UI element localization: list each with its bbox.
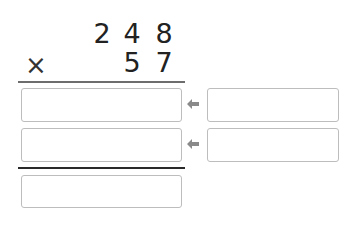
- arrow-left-icon: [187, 139, 199, 149]
- divider-line-bottom: [18, 167, 185, 169]
- partial-product-2-input[interactable]: [21, 128, 182, 162]
- multiply-sign: ×: [25, 52, 47, 78]
- arrow-left-icon: [187, 99, 199, 109]
- helper-2-input[interactable]: [207, 128, 339, 162]
- multiplicand-digit-ones: 8: [154, 20, 174, 47]
- multiplier-digit-tens: 5: [122, 49, 142, 76]
- multiplicand-digit-hundreds: 2: [92, 20, 112, 47]
- helper-1-input[interactable]: [207, 88, 339, 122]
- multiplicand-digit-tens: 4: [122, 20, 142, 47]
- partial-product-1-input[interactable]: [21, 88, 182, 122]
- multiplier-digit-ones: 7: [154, 49, 174, 76]
- divider-line-top: [18, 81, 185, 83]
- final-product-input[interactable]: [21, 175, 182, 208]
